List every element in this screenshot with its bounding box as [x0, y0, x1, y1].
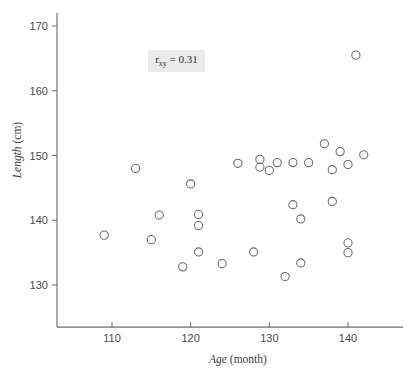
data-point [328, 197, 336, 205]
data-points [100, 51, 368, 281]
data-point [256, 163, 264, 171]
data-point [305, 159, 313, 167]
y-axis-title-variable: Length [11, 146, 24, 179]
scatter-plot-figure: 130140150160170110120130140 Age (month)L… [0, 0, 418, 376]
data-point [100, 231, 108, 239]
plot-canvas: 130140150160170110120130140 Age (month)L… [0, 0, 418, 376]
data-point [147, 236, 155, 244]
x-axis-title-variable: Age [208, 353, 227, 366]
data-point [281, 272, 289, 280]
y-axis-title-unit: (cm) [11, 122, 24, 147]
data-point [352, 51, 360, 59]
data-point [265, 166, 273, 174]
data-point [234, 159, 242, 167]
x-tick-label: 110 [103, 332, 121, 344]
y-tick-label: 130 [30, 279, 48, 291]
y-tick-label: 170 [30, 20, 48, 32]
data-point [344, 239, 352, 247]
correlation-subscript: xy [159, 59, 167, 68]
y-tick-label: 150 [30, 150, 48, 162]
data-point [344, 160, 352, 168]
data-point [344, 249, 352, 257]
data-point [194, 248, 202, 256]
data-point [187, 180, 195, 188]
data-point [256, 155, 264, 163]
x-tick-label: 120 [181, 332, 199, 344]
data-point [250, 248, 258, 256]
data-point [194, 210, 202, 218]
data-point [297, 215, 305, 223]
axis-titles: Age (month)Length (cm) [11, 122, 267, 366]
correlation-value: = 0.31 [167, 53, 198, 65]
y-tick-label: 140 [30, 214, 48, 226]
x-axis-title-unit: (month) [227, 353, 267, 366]
data-point [194, 221, 202, 229]
data-point [328, 166, 336, 174]
data-point [218, 260, 226, 268]
data-point [289, 159, 297, 167]
y-tick-label: 160 [30, 85, 48, 97]
x-axis-title: Age (month) [208, 353, 267, 366]
data-point [179, 263, 187, 271]
data-point [132, 164, 140, 172]
data-point [273, 159, 281, 167]
y-axis-title: Length (cm) [11, 122, 24, 180]
axes [57, 13, 403, 327]
correlation-annotation: rxy = 0.31 [148, 50, 205, 72]
data-point [360, 151, 368, 159]
data-point [297, 259, 305, 267]
data-point [336, 148, 344, 156]
x-tick-label: 140 [339, 332, 357, 344]
data-point [289, 201, 297, 209]
data-point [155, 211, 163, 219]
x-tick-label: 130 [260, 332, 278, 344]
data-point [320, 140, 328, 148]
